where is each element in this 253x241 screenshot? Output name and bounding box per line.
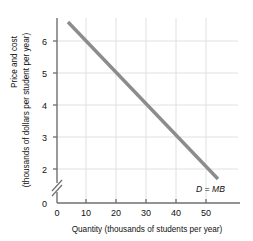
- ytick-label-5: 5: [42, 69, 47, 79]
- xtick-label-50: 50: [201, 208, 211, 218]
- ytick-label-4: 4: [42, 101, 47, 111]
- xtick-label-40: 40: [171, 208, 181, 218]
- vertical-gridlines: [86, 18, 206, 203]
- ytick-label-6: 6: [42, 37, 47, 47]
- demand-marginal-benefit-chart: 6 5 4 3 2 0 0 10 20 30 40 50 D = MB Quan…: [0, 0, 253, 241]
- y-axis-title-line1: Price and cost: [10, 35, 19, 88]
- demand-marginal-benefit-line: [68, 22, 218, 179]
- xtick-label-20: 20: [111, 208, 121, 218]
- y-axis-title-line2: (thousands of dollars per student per ye…: [22, 33, 31, 188]
- ytick-label-0: 0: [42, 199, 47, 209]
- xtick-label-30: 30: [141, 208, 151, 218]
- x-axis-title: Quantity (thousands of students per year…: [72, 225, 223, 234]
- ytick-label-2: 2: [42, 165, 47, 175]
- xtick-label-10: 10: [81, 208, 91, 218]
- xtick-label-0: 0: [54, 208, 59, 218]
- chart-canvas: 6 5 4 3 2 0 0 10 20 30 40 50 D = MB Quan…: [0, 0, 253, 241]
- series-label-demand-mb: D = MB: [196, 184, 225, 194]
- ytick-label-3: 3: [42, 133, 47, 143]
